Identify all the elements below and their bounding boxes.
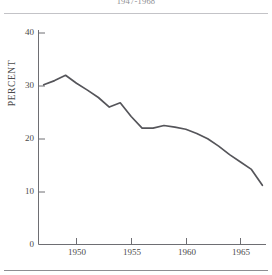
y-axis-ticks [39,33,46,192]
y-tick-label-20: 20 [12,133,34,143]
data-series-line [44,75,263,185]
x-tick-label-1965: 1965 [221,247,261,257]
y-tick-label-10: 10 [12,186,34,196]
x-tick-label-1950: 1950 [57,247,97,257]
y-tick-label-30: 30 [12,80,34,90]
y-tick-label-40: 40 [12,27,34,37]
x-tick-label-1960: 1960 [167,247,207,257]
x-axis-ticks [77,238,241,245]
y-tick-label-0: 0 [12,239,34,249]
x-tick-label-1955: 1955 [112,247,152,257]
figure-root: 1947-1968 PERCENT 40 30 20 10 0 1950 195… [0,0,272,275]
line-chart-plot [0,0,272,275]
